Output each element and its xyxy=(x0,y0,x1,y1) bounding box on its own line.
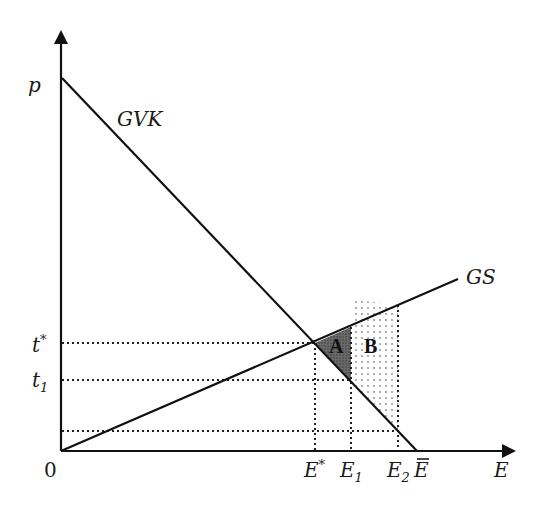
e-star-label: E* xyxy=(303,457,326,482)
e2-label: E2 xyxy=(386,458,410,485)
t-star-label: t* xyxy=(32,332,47,357)
x-axis-label: E xyxy=(493,458,509,482)
supply-curve-label: GS xyxy=(466,265,496,289)
x-axis-arrow-icon xyxy=(502,444,516,458)
economics-diagram: p GVK GS t* t1 0 E* E1 E2 E E A B xyxy=(0,0,542,507)
region-b-area xyxy=(351,299,398,431)
e-bar-label: E xyxy=(413,458,429,482)
e1-label: E1 xyxy=(339,458,363,485)
demand-curve-gvk xyxy=(62,78,417,451)
y-axis-arrow-icon xyxy=(54,30,68,44)
demand-curve-label: GVK xyxy=(117,107,163,131)
origin-label: 0 xyxy=(44,458,57,482)
t1-label: t1 xyxy=(32,368,48,395)
y-axis-label: p xyxy=(28,73,41,97)
region-a-label: A xyxy=(329,335,344,357)
region-b-label: B xyxy=(364,335,377,357)
